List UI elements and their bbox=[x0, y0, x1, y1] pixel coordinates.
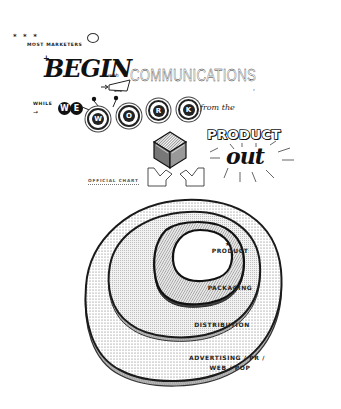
star-mark-icon: ★ bbox=[225, 240, 231, 247]
while-word: WHILE bbox=[33, 101, 52, 106]
letter-o-ring: O bbox=[118, 105, 140, 127]
letter-k-ring: K bbox=[178, 99, 199, 120]
radiating-arrows-icon bbox=[206, 138, 296, 188]
stars-mark: * * * bbox=[13, 33, 39, 41]
layer-advertising-label-line1: ADVERTISING / PR / bbox=[172, 354, 282, 361]
layer-packaging-label: PACKAGING bbox=[190, 284, 270, 291]
product-cube-icon bbox=[146, 128, 206, 188]
layer-advertising-label-line2: WEB / POP bbox=[180, 364, 280, 371]
comma-mark: , bbox=[253, 84, 255, 91]
from-the-text: from the bbox=[200, 103, 235, 112]
letter-r-ring: R bbox=[148, 100, 169, 121]
arrow-right-icon: → bbox=[33, 108, 38, 115]
megaphone-icon bbox=[100, 78, 134, 92]
thought-bubble-icon bbox=[87, 33, 99, 43]
communications-word: COMMUNICATIONS bbox=[130, 66, 256, 86]
layer-product-label: PRODUCT bbox=[190, 247, 270, 254]
official-chart-caption: OFFICIAL CHART bbox=[88, 178, 139, 185]
intro-text: MOST MARKETERS bbox=[27, 42, 82, 47]
letter-w-ring: W bbox=[87, 108, 109, 130]
layer-distribution-label: DISTRIBUTION bbox=[172, 321, 272, 328]
